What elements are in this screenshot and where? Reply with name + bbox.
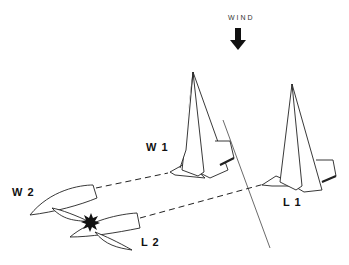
dashed-line-l	[140, 183, 268, 218]
wind-arrow-icon	[230, 28, 246, 50]
boat-label-l2: L 2	[141, 236, 160, 248]
boat-w1	[170, 72, 234, 178]
boat-label-w1: W 1	[146, 141, 169, 153]
wind-label: WIND	[228, 14, 255, 21]
dashed-line-w	[96, 173, 168, 188]
boat-label-l1: L 1	[283, 196, 302, 208]
boat-l1	[262, 84, 336, 192]
boat-w2	[30, 185, 97, 222]
sailing-diagram	[0, 0, 349, 265]
boat-label-w2: W 2	[12, 186, 35, 198]
